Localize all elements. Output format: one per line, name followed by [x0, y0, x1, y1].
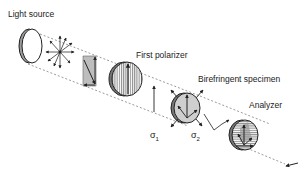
light-source-disc: [19, 29, 42, 63]
label-light-source: Light source: [8, 10, 54, 19]
label-birefringent-specimen: Birefringent specimen: [198, 75, 280, 84]
zigzag-arrow: [222, 120, 229, 124]
viewer-arrow: [286, 163, 298, 166]
wave-panel: [83, 56, 96, 86]
analyzer-disc: [229, 120, 258, 150]
birefringent-specimen-disc: [171, 93, 200, 123]
first-polarizer-disc: [109, 62, 142, 96]
phase-shift-zigzag: [204, 114, 222, 130]
polariscope-diagram: [0, 0, 308, 172]
light-origin-dot: [59, 51, 62, 54]
label-analyzer: Analyzer: [249, 101, 282, 110]
label-first-polarizer: First polarizer: [136, 51, 187, 60]
label-sigma-2: σ2: [191, 131, 200, 142]
label-sigma-1: σ1: [150, 131, 159, 142]
